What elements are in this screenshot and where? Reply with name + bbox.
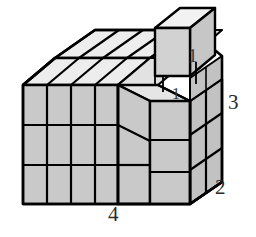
dimension-label-depth: 2 — [215, 177, 226, 198]
notch-depth-label: 1 — [172, 86, 180, 102]
dimension-label-width: 4 — [108, 204, 119, 225]
front-face-right-column — [118, 85, 150, 204]
dimension-label-height: 3 — [228, 92, 239, 113]
front-face — [23, 85, 150, 204]
front-right-column-panel — [150, 101, 190, 204]
figure-canvas: 4 2 3 1 1 — [0, 0, 256, 237]
block-diagram-svg — [0, 0, 256, 237]
unit-cube-label: 1 — [188, 46, 198, 65]
unit-cube-front-face — [155, 28, 190, 76]
